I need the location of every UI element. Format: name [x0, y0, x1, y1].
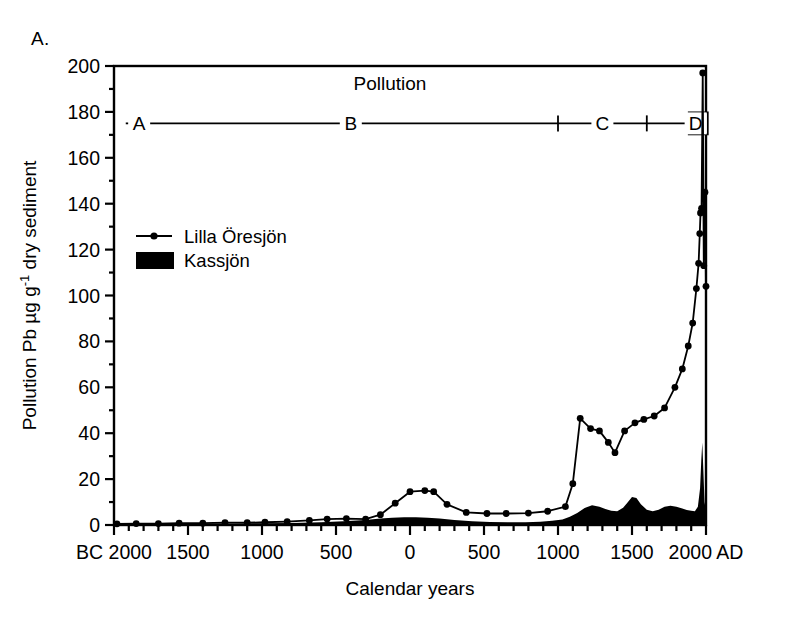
lilla-oresjon-point: [672, 384, 679, 391]
x-tick-label: 2000 AD: [669, 541, 744, 563]
lilla-oresjon-point: [262, 519, 269, 526]
lilla-oresjon-point: [605, 439, 612, 446]
zone-label-b: B: [344, 113, 357, 134]
lilla-oresjon-point: [696, 230, 703, 237]
y-tick-label: 80: [78, 330, 100, 352]
x-tick-label: 1500: [166, 541, 210, 563]
lilla-oresjon-point: [698, 205, 705, 212]
lilla-oresjon-point: [503, 510, 510, 517]
x-tick-label: 1000: [240, 541, 284, 563]
x-axis-title: Calendar years: [346, 578, 475, 599]
lilla-oresjon-point: [463, 509, 470, 516]
lilla-oresjon-point: [392, 500, 399, 507]
lilla-oresjon-point: [679, 366, 686, 373]
lilla-oresjon-point: [612, 449, 619, 456]
lilla-oresjon-point: [661, 405, 668, 412]
y-tick-label: 200: [67, 55, 100, 77]
y-tick-label: 0: [89, 514, 100, 536]
lilla-oresjon-line: [117, 73, 706, 524]
zone-label-c: C: [596, 113, 610, 134]
lilla-oresjon-point: [377, 511, 384, 518]
lilla-oresjon-point: [430, 488, 437, 495]
lilla-oresjon-point: [444, 501, 451, 508]
zone-label-a: A: [133, 113, 146, 134]
x-tick-label: 500: [320, 541, 353, 563]
lilla-oresjon-point: [525, 510, 532, 517]
x-tick-label: 1000: [536, 541, 580, 563]
y-tick-label: 140: [67, 193, 100, 215]
lilla-oresjon-point: [544, 508, 551, 515]
lilla-oresjon-point: [562, 503, 569, 510]
lilla-oresjon-point: [632, 419, 639, 426]
lilla-oresjon-point: [651, 413, 658, 420]
lilla-oresjon-point: [284, 518, 291, 525]
legend-marker-sample: [150, 232, 157, 239]
figure-container: A. 020406080100120140160180200BC 2000150…: [0, 0, 788, 633]
lilla-oresjon-point: [222, 519, 229, 526]
lilla-oresjon-point: [587, 425, 594, 432]
y-tick-label: 100: [67, 285, 100, 307]
zone-label-d: D: [689, 113, 703, 134]
y-tick-label: 120: [67, 239, 100, 261]
lilla-oresjon-point: [569, 480, 576, 487]
lilla-oresjon-point: [640, 416, 647, 423]
lilla-oresjon-point: [155, 520, 162, 527]
lilla-oresjon-point: [702, 189, 709, 196]
x-tick-label: 0: [405, 541, 416, 563]
x-tick-label: 1500: [610, 541, 654, 563]
lilla-oresjon-point: [176, 520, 183, 527]
lilla-oresjon-point: [244, 519, 251, 526]
plot-title: Pollution: [354, 73, 427, 94]
lilla-oresjon-point: [693, 285, 700, 292]
y-tick-label: 20: [78, 468, 100, 490]
legend-box-sample: [136, 252, 174, 269]
lilla-oresjon-point: [703, 283, 710, 290]
lilla-oresjon-point: [362, 516, 369, 523]
lilla-oresjon-point: [700, 262, 707, 269]
plot-frame: [114, 66, 706, 525]
lilla-oresjon-point: [484, 510, 491, 517]
x-tick-label: BC 2000: [76, 541, 152, 563]
y-tick-label: 60: [78, 376, 100, 398]
x-tick-label: 500: [468, 541, 501, 563]
y-tick-label: 160: [67, 147, 100, 169]
lilla-oresjon-point: [114, 520, 121, 527]
y-tick-label: 40: [78, 422, 100, 444]
lilla-oresjon-point: [421, 487, 428, 494]
lilla-oresjon-point: [306, 517, 313, 524]
lilla-oresjon-point: [324, 516, 331, 523]
lilla-oresjon-point: [199, 520, 206, 527]
y-axis-title: Pollution Pb µg g-1 dry sediment: [17, 160, 40, 430]
lilla-oresjon-point: [596, 428, 603, 435]
lilla-oresjon-point: [689, 320, 696, 327]
lilla-oresjon-point: [343, 515, 350, 522]
lilla-oresjon-point: [407, 488, 414, 495]
legend-label-kassjon: Kassjön: [184, 250, 250, 271]
legend-label-lilla-oresjon: Lilla Öresjön: [184, 226, 287, 247]
lilla-oresjon-point: [577, 415, 584, 422]
lilla-oresjon-point: [699, 69, 706, 76]
lilla-oresjon-point: [133, 520, 140, 527]
lilla-oresjon-point: [621, 428, 628, 435]
lilla-oresjon-point: [685, 343, 692, 350]
y-tick-label: 180: [67, 101, 100, 123]
pollution-chart: 020406080100120140160180200BC 2000150010…: [0, 0, 788, 633]
